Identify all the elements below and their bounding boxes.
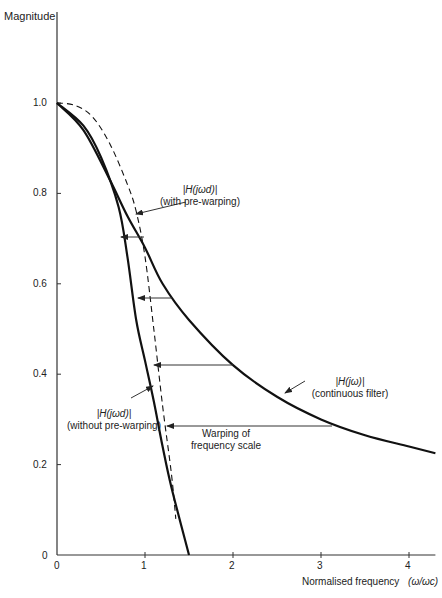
label-with-prewarping: |H(jωd)| (with pre-warping) [150,184,250,208]
x-tick-3: 3 [317,560,323,572]
y-tick-0.4: 0.4 [33,368,47,380]
curves [57,103,435,555]
x-axis-label: Normalised frequency (ω/ωc) [302,576,438,588]
pointer-without-prewarping [131,386,153,398]
y-tick-0.2: 0.2 [33,459,47,471]
with-prewarping-curve [57,103,176,519]
x-tick-0: 0 [54,560,60,572]
axes [57,12,435,558]
x-tick-4: 4 [405,560,411,572]
y-tick-0.6: 0.6 [33,278,47,290]
label-continuous-filter: |H(jω)| (continuous filter) [300,376,400,400]
x-tick-1: 1 [141,560,147,572]
y-axis-label: Magnitude [4,10,55,22]
y-tick-0.8: 0.8 [33,187,47,199]
y-tick-1.0: 1.0 [33,97,47,109]
y-tick-0: 0 [42,550,48,562]
x-tick-2: 2 [229,560,235,572]
chart-plot [0,0,442,598]
without-prewarping-curve [57,103,189,555]
label-without-prewarping: |H(jωd)| (without pre-warping) [64,408,164,432]
label-warping: Warping of frequency scale [176,428,276,452]
continuous-curve [57,103,435,453]
